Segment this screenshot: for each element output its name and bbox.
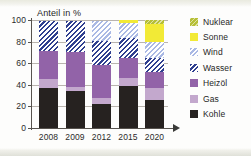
legend-label: Sonne (203, 32, 228, 42)
legend-swatch-icon (190, 110, 198, 118)
y-tick-label: 60 (16, 58, 26, 68)
legend-item-heizl[interactable]: Heizöl (190, 76, 250, 91)
bar-2008[interactable] (39, 20, 58, 128)
legend-item-gas[interactable]: Gas (190, 91, 250, 106)
bar-segment-gas-2009[interactable] (66, 87, 85, 91)
legend-swatch-icon (190, 18, 198, 26)
x-tick-label-2008: 2008 (39, 132, 58, 142)
legend-swatch-icon (190, 95, 198, 103)
y-axis-tick (28, 20, 32, 21)
bar-segment-heizl-2015[interactable] (119, 58, 138, 79)
bar-segment-gas-2020[interactable] (145, 88, 164, 100)
chart-figure: Anteil in % 020406080100 200820092012201… (0, 0, 251, 156)
legend-label: Kohle (203, 109, 225, 119)
bar-segment-gas-2012[interactable] (92, 98, 111, 104)
bar-segment-wasser-2009[interactable] (66, 21, 85, 52)
y-tick-label: 80 (16, 37, 26, 47)
bar-2009[interactable] (66, 20, 85, 128)
bar-segment-wasser-2008[interactable] (39, 21, 58, 51)
bar-segment-heizl-2012[interactable] (92, 65, 111, 97)
legend-label: Wind (203, 47, 223, 57)
x-tick-label-2020: 2020 (145, 132, 164, 142)
bar-segment-kohle-2015[interactable] (119, 86, 138, 128)
bar-2015[interactable] (119, 20, 138, 128)
y-tick-label: 20 (16, 101, 26, 111)
x-axis (31, 128, 174, 129)
bar-segment-wind-2020[interactable] (145, 42, 164, 58)
legend-label: Gas (203, 94, 219, 104)
bar-segment-heizl-2020[interactable] (145, 72, 164, 88)
y-tick-label: 0 (21, 123, 26, 133)
x-tick-label-2009: 2009 (65, 132, 84, 142)
legend-label: Heizöl (203, 78, 227, 88)
bar-2012[interactable] (92, 20, 111, 128)
bar-segment-gas-2008[interactable] (39, 79, 58, 88)
bar-segment-kohle-2009[interactable] (66, 91, 85, 128)
bar-segment-nuklear-2020[interactable] (145, 20, 164, 24)
bar-segment-wasser-2015[interactable] (119, 38, 138, 57)
plot-area: 020406080100 20082009201220152020 (32, 20, 168, 128)
y-axis-tick (28, 42, 32, 43)
y-tick-label: 100 (12, 15, 26, 25)
bar-segment-heizl-2008[interactable] (39, 51, 58, 79)
y-axis-tick (28, 63, 32, 64)
legend-swatch-icon (190, 64, 198, 72)
legend-swatch-icon (190, 48, 198, 56)
x-tick-label-2012: 2012 (92, 132, 111, 142)
x-tick-label-2015: 2015 (118, 132, 137, 142)
bar-segment-wasser-2012[interactable] (92, 41, 111, 66)
bar-segment-kohle-2012[interactable] (92, 104, 111, 128)
legend-swatch-icon (190, 79, 198, 87)
y-axis-tick (28, 106, 32, 107)
legend-item-nuklear[interactable]: Nuklear (190, 14, 250, 29)
y-axis-tick (28, 128, 32, 129)
bar-segment-wind-2015[interactable] (119, 23, 138, 38)
scan-artifact-top (0, 0, 251, 7)
chart-title: Anteil in % (37, 8, 81, 18)
bar-segment-gas-2015[interactable] (119, 78, 138, 86)
bar-2020[interactable] (145, 20, 164, 128)
legend-swatch-icon (190, 33, 198, 41)
x-axis-arrow-icon (173, 124, 180, 132)
legend-item-wind[interactable]: Wind (190, 45, 250, 60)
bar-segment-kohle-2008[interactable] (39, 88, 58, 128)
bar-segment-kohle-2020[interactable] (145, 100, 164, 128)
y-tick-label: 40 (16, 80, 26, 90)
legend-item-kohle[interactable]: Kohle (190, 106, 250, 121)
legend-label: Wasser (203, 63, 232, 73)
bar-segment-heizl-2009[interactable] (66, 52, 85, 87)
legend-item-sonne[interactable]: Sonne (190, 29, 250, 44)
y-axis-tick (28, 85, 32, 86)
y-axis (31, 18, 32, 130)
legend-label: Nuklear (203, 17, 233, 27)
bar-segment-sonne-2020[interactable] (145, 24, 164, 41)
scan-artifact-bottom (0, 148, 251, 156)
bar-segment-wind-2012[interactable] (92, 21, 111, 40)
legend-item-wasser[interactable]: Wasser (190, 60, 250, 75)
legend: NuklearSonneWindWasserHeizölGasKohle (190, 14, 250, 122)
bar-segment-sonne-2015[interactable] (119, 20, 138, 23)
bar-segment-wasser-2020[interactable] (145, 58, 164, 72)
